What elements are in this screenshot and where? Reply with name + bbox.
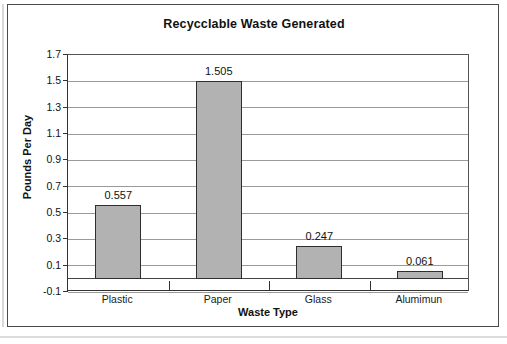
y-axis-tick-label: 1.5: [27, 75, 61, 86]
x-axis-category-label: Glass: [268, 293, 369, 309]
x-axis-category-label: Plastic: [67, 293, 168, 309]
bar-slot: 1.505: [169, 55, 270, 290]
bar[interactable]: [397, 271, 443, 279]
bar-value-label: 0.557: [104, 189, 132, 201]
y-axis-tick-label: 1.1: [27, 128, 61, 139]
y-axis-tick-label: 0.3: [27, 233, 61, 244]
y-axis-tick-label: 0.5: [27, 207, 61, 218]
bar-value-label: 1.505: [205, 65, 233, 77]
y-axis-tick-label: 0.1: [27, 260, 61, 271]
bar[interactable]: [196, 81, 242, 279]
chart-title: Recycclable Waste Generated: [8, 17, 500, 31]
chart-frame: Recycclable Waste Generated Pounds Per D…: [7, 4, 499, 327]
scan-edge-left: [2, 4, 4, 327]
y-axis-tick-label: -0.1: [27, 286, 61, 297]
y-axis-tick-label: 1.7: [27, 49, 61, 60]
y-axis-tick-label: 0.7: [27, 181, 61, 192]
x-axis-category-label: Alumimun: [369, 293, 470, 309]
x-axis-category-label: Paper: [168, 293, 269, 309]
bars-layer: 0.5571.5050.2470.061: [68, 55, 468, 290]
bar-value-label: 0.247: [305, 230, 333, 242]
bar-slot: 0.247: [269, 55, 370, 290]
bar-slot: 0.557: [68, 55, 169, 290]
y-axis-tick-label: 1.3: [27, 102, 61, 113]
bar[interactable]: [296, 246, 342, 279]
bar-slot: 0.061: [370, 55, 471, 290]
scan-edge-bottom: [0, 336, 507, 338]
x-axis-category-labels: PlasticPaperGlassAlumimun: [67, 293, 469, 309]
y-axis-tick-label: 0.9: [27, 154, 61, 165]
bar-value-label: 0.061: [406, 255, 434, 267]
plot-area: 0.5571.5050.2470.061: [67, 54, 469, 291]
bar[interactable]: [95, 205, 141, 278]
